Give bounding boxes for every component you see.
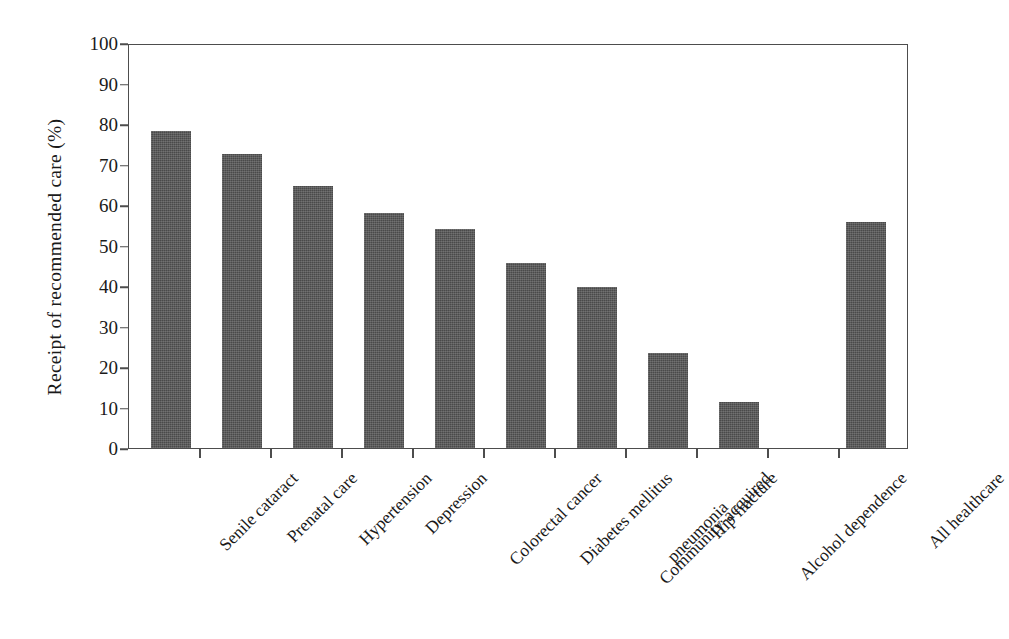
x-tick-mark-5 <box>483 449 485 458</box>
y-tick-mark-30 <box>120 327 128 329</box>
x-label-hypertension: Hypertension <box>355 468 437 550</box>
x-tick-mark-6 <box>554 449 556 458</box>
y-tick-label-100: 100 <box>58 33 118 55</box>
bar-prenatal-care <box>222 154 262 448</box>
y-tick-mark-10 <box>120 408 128 410</box>
y-tick-label-50: 50 <box>58 236 118 258</box>
x-label-senile-cataract: Senile cataract <box>215 468 302 555</box>
y-tick-mark-40 <box>120 286 128 288</box>
y-tick-mark-50 <box>120 246 128 248</box>
x-tick-mark-9 <box>767 449 769 458</box>
plot-area <box>128 44 908 449</box>
y-tick-mark-80 <box>120 124 128 126</box>
bar-hypertension <box>293 186 333 448</box>
bar-all-healthcare <box>846 222 886 448</box>
y-tick-mark-90 <box>120 84 128 86</box>
y-tick-mark-60 <box>120 205 128 207</box>
y-tick-mark-70 <box>120 165 128 167</box>
y-tick-label-10: 10 <box>58 398 118 420</box>
y-tick-mark-0 <box>120 448 128 450</box>
x-tick-mark-10 <box>838 449 840 458</box>
bar-community-acquired-pneumonia <box>577 287 617 448</box>
bar-depression <box>364 213 404 448</box>
bar-alcohol-dependence <box>719 402 759 448</box>
y-tick-mark-100 <box>120 43 128 45</box>
x-tick-mark-3 <box>341 449 343 458</box>
y-tick-label-70: 70 <box>58 155 118 177</box>
bar-hip-fracture <box>648 353 688 449</box>
y-tick-label-80: 80 <box>58 114 118 136</box>
y-tick-label-90: 90 <box>58 74 118 96</box>
bar-colorectal-cancer <box>435 229 475 448</box>
y-tick-label-0: 0 <box>58 438 118 460</box>
x-tick-mark-7 <box>625 449 627 458</box>
bar-senile-cataract <box>151 131 191 448</box>
y-tick-label-30: 30 <box>58 317 118 339</box>
x-tick-mark-4 <box>412 449 414 458</box>
y-tick-label-60: 60 <box>58 195 118 217</box>
y-tick-mark-20 <box>120 367 128 369</box>
x-label-all-healthcare: All healthcare <box>924 468 1009 553</box>
y-tick-label-40: 40 <box>58 276 118 298</box>
bar-diabetes-mellitus <box>506 263 546 448</box>
x-label-alcohol-dependence: Alcohol dependence <box>795 468 911 584</box>
x-tick-mark-2 <box>270 449 272 458</box>
x-tick-mark-8 <box>696 449 698 458</box>
y-tick-label-20: 20 <box>58 357 118 379</box>
x-tick-mark-1 <box>199 449 201 458</box>
